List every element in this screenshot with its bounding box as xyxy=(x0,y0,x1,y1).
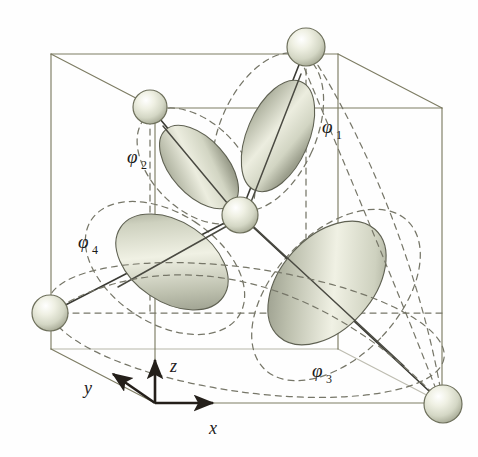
construction-guides-front xyxy=(39,47,452,419)
guide-ellipse-bottom xyxy=(39,241,452,419)
ligand-atom-phi2 xyxy=(133,90,167,124)
phi-3-label: φ xyxy=(312,360,323,381)
ligand-atom-phi4 xyxy=(32,295,68,331)
phi-3-subscript: 3 xyxy=(326,372,332,386)
phi-1-subscript: 1 xyxy=(336,128,342,142)
figure-root: φ 1 φ 2 φ 3 φ 4 z y x xyxy=(0,0,478,457)
phi-4-label: φ xyxy=(78,231,89,252)
cube-edge-connect-tr xyxy=(338,54,442,108)
orbital-diagram: φ 1 φ 2 φ 3 φ 4 z y x xyxy=(0,0,478,457)
atom-spheres xyxy=(32,28,462,423)
phi-4-subscript: 4 xyxy=(92,243,98,257)
axis-labels: z y x xyxy=(82,356,217,438)
guide-arc-phi3-a xyxy=(306,47,443,404)
ligand-atom-phi1 xyxy=(287,28,325,66)
cube-edge-connect-bl xyxy=(51,349,155,403)
coordinate-axes xyxy=(113,360,213,403)
central-atom xyxy=(222,197,258,233)
y-axis-label: y xyxy=(82,378,92,398)
phi-1-label: φ xyxy=(322,116,333,137)
phi-2-subscript: 2 xyxy=(141,158,147,172)
z-axis-label: z xyxy=(169,356,177,376)
phi-2-label: φ xyxy=(127,146,138,167)
y-axis-arrow xyxy=(113,374,155,403)
lobe-phi1 xyxy=(226,70,329,203)
ligand-atom-phi3 xyxy=(424,385,462,423)
x-axis-label: x xyxy=(208,418,217,438)
guide-arc-lower-left xyxy=(50,275,443,404)
